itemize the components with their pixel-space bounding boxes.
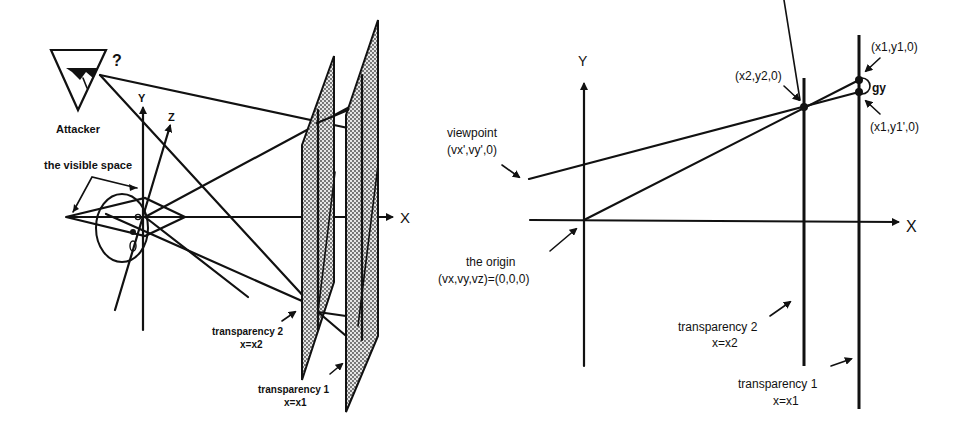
left-transparency-1-label: transparency 1: [258, 384, 330, 395]
point-x1y1prime: [855, 88, 863, 96]
left-x-axis-label: X: [400, 209, 410, 226]
pointer-x1y1: [866, 58, 880, 71]
right-transparency-1-eq: x=x1: [773, 394, 799, 408]
left-y-axis-label: Y: [138, 92, 146, 104]
point-x2y2: [800, 103, 808, 111]
label-x2y2: (x2,y2,0): [735, 69, 782, 83]
left-diagram: ? Attacker Y Z X the visible space: [44, 20, 410, 412]
right-y-axis-label: Y: [578, 53, 588, 69]
gap-label: gy: [872, 81, 886, 95]
point-x1y1: [855, 76, 863, 84]
transparency-2-plane: [302, 56, 335, 380]
left-transparency-2-label: transparency 2: [212, 326, 284, 337]
transparency-1-plane: [346, 20, 378, 412]
attacker-label: Attacker: [56, 123, 101, 135]
figure-canvas: ? Attacker Y Z X the visible space: [0, 0, 980, 438]
origin-label: the origin: [466, 255, 515, 269]
left-z-axis-label: Z: [168, 111, 175, 123]
ray-origin: [584, 80, 859, 220]
right-x-axis-label: X: [906, 218, 917, 235]
pointer-x1y1prime: [866, 101, 880, 114]
pointer-right-transparency-1: [831, 359, 851, 366]
right-diagram: Y X (x2,y2,0) (x1,y1,0) gy (x1,y1',0) vi…: [438, 0, 919, 409]
pointer-right-transparency-2: [770, 302, 790, 316]
right-transparency-2-label: transparency 2: [678, 320, 758, 334]
attacker-icon: [51, 50, 106, 110]
left-transparency-1-eq: x=x1: [284, 397, 307, 408]
right-transparency-1-label: transparency 1: [738, 377, 818, 391]
visible-space-label: the visible space: [44, 159, 132, 171]
label-x1y1prime: (x1,y1',0): [870, 120, 919, 134]
viewpoint-label: viewpoint: [447, 126, 498, 140]
gap-bracket: [862, 78, 870, 94]
right-transparency-2-eq: x=x2: [712, 336, 738, 350]
pointer-origin: [550, 229, 576, 251]
pointer-x2y2: [784, 86, 799, 100]
transparency-1-pointer: [330, 364, 342, 374]
origin-coords: (vx,vy,vz)=(0,0,0): [438, 272, 529, 286]
pointer-viewpoint: [502, 165, 519, 177]
label-x1y1: (x1,y1,0): [871, 40, 918, 54]
question-mark: ?: [112, 52, 122, 69]
sight-line-lower: [100, 75, 318, 312]
left-transparency-2-eq: x=x2: [240, 339, 263, 350]
transparency-2-pointer: [282, 312, 295, 321]
viewpoint-coords: (vx',vy',0): [447, 143, 497, 157]
